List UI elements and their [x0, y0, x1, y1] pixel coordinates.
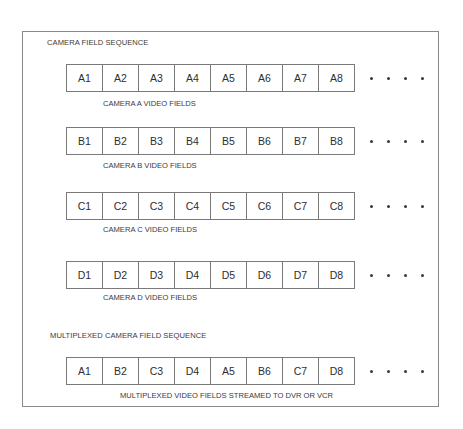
- dot-icon: [404, 274, 407, 277]
- dot-icon: [387, 274, 390, 277]
- field-cell: A3: [138, 64, 175, 92]
- field-cell: B5: [210, 127, 247, 155]
- field-cell: D2: [102, 261, 139, 289]
- camera-d-caption: CAMERA D VIDEO FIELDS: [103, 293, 197, 303]
- field-cell: D4: [174, 357, 211, 385]
- field-cell: A7: [282, 64, 319, 92]
- field-cell: B7: [282, 127, 319, 155]
- dot-icon: [421, 205, 424, 208]
- dot-icon: [370, 77, 373, 80]
- field-cell: B2: [102, 127, 139, 155]
- dot-icon: [370, 370, 373, 373]
- camera-c-field-row: C1 C2 C3 C4 C5 C6 C7 C8: [66, 192, 355, 220]
- dot-icon: [421, 77, 424, 80]
- field-cell: B2: [102, 357, 139, 385]
- field-cell: D7: [282, 261, 319, 289]
- field-cell: D8: [318, 357, 355, 385]
- dot-icon: [404, 77, 407, 80]
- camera-b-caption: CAMERA B VIDEO FIELDS: [103, 161, 197, 171]
- field-cell: A5: [210, 357, 247, 385]
- dot-icon: [387, 370, 390, 373]
- dot-icon: [387, 205, 390, 208]
- field-cell: A6: [246, 64, 283, 92]
- dot-icon: [404, 205, 407, 208]
- field-cell: D5: [210, 261, 247, 289]
- dot-icon: [421, 140, 424, 143]
- continuation-dots: [370, 127, 424, 155]
- field-cell: B3: [138, 127, 175, 155]
- field-cell: C7: [282, 357, 319, 385]
- field-cell: C3: [138, 192, 175, 220]
- field-cell: B4: [174, 127, 211, 155]
- field-cell: C4: [174, 192, 211, 220]
- camera-d-field-row: D1 D2 D3 D4 D5 D6 D7 D8: [66, 261, 355, 289]
- field-cell: C3: [138, 357, 175, 385]
- camera-b-field-row: B1 B2 B3 B4 B5 B6 B7 B8: [66, 127, 355, 155]
- field-cell: C8: [318, 192, 355, 220]
- field-cell: A8: [318, 64, 355, 92]
- field-cell: D6: [246, 261, 283, 289]
- continuation-dots: [370, 261, 424, 289]
- field-cell: A1: [66, 64, 103, 92]
- field-cell: A5: [210, 64, 247, 92]
- field-cell: B6: [246, 357, 283, 385]
- continuation-dots: [370, 64, 424, 92]
- multiplexed-field-row: A1 B2 C3 D4 A5 B6 C7 D8: [66, 357, 355, 385]
- dot-icon: [387, 77, 390, 80]
- dot-icon: [370, 274, 373, 277]
- multiplexed-caption: MULTIPLEXED VIDEO FIELDS STREAMED TO DVR…: [120, 391, 333, 401]
- field-cell: C7: [282, 192, 319, 220]
- field-cell: A2: [102, 64, 139, 92]
- dot-icon: [421, 370, 424, 373]
- continuation-dots: [370, 192, 424, 220]
- dot-icon: [404, 370, 407, 373]
- continuation-dots: [370, 357, 424, 385]
- camera-field-sequence-title: CAMERA FIELD SEQUENCE: [47, 38, 148, 48]
- field-cell: C2: [102, 192, 139, 220]
- multiplexed-sequence-title: MULTIPLEXED CAMERA FIELD SEQUENCE: [50, 331, 206, 341]
- field-cell: D1: [66, 261, 103, 289]
- field-cell: A1: [66, 357, 103, 385]
- field-cell: A4: [174, 64, 211, 92]
- dot-icon: [370, 205, 373, 208]
- field-cell: D4: [174, 261, 211, 289]
- camera-a-caption: CAMERA A VIDEO FIELDS: [103, 99, 196, 109]
- camera-c-caption: CAMERA C VIDEO FIELDS: [103, 225, 197, 235]
- field-cell: C6: [246, 192, 283, 220]
- field-cell: D8: [318, 261, 355, 289]
- dot-icon: [421, 274, 424, 277]
- field-cell: D3: [138, 261, 175, 289]
- dot-icon: [387, 140, 390, 143]
- dot-icon: [404, 140, 407, 143]
- field-cell: C1: [66, 192, 103, 220]
- dot-icon: [370, 140, 373, 143]
- field-cell: C5: [210, 192, 247, 220]
- camera-a-field-row: A1 A2 A3 A4 A5 A6 A7 A8: [66, 64, 355, 92]
- field-cell: B8: [318, 127, 355, 155]
- field-cell: B6: [246, 127, 283, 155]
- field-cell: B1: [66, 127, 103, 155]
